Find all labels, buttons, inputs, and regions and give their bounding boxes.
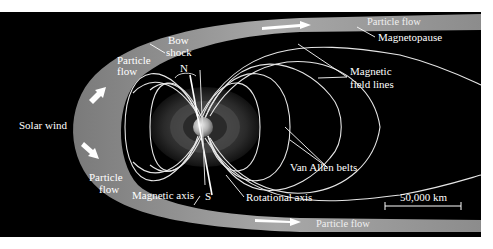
label-magnetopause: Magnetopause (378, 31, 442, 43)
label-magnetic-field-lines-2: field lines (350, 78, 394, 90)
label-magnetic-field-lines-1: Magnetic (350, 65, 392, 77)
magnetosphere-diagram: Solar wind Bow shock Particle flow Parti… (0, 0, 493, 249)
label-scale-bar: 50,000 km (400, 191, 448, 203)
label-bow-shock-1: Bow (168, 34, 189, 46)
label-van-allen-belts: Van Allen belts (290, 161, 357, 173)
label-solar-wind: Solar wind (19, 119, 67, 131)
label-particle-flow-bottom: Particle flow (316, 218, 370, 229)
label-particle-flow-lower-2: flow (99, 183, 119, 195)
label-bow-shock-2: shock (166, 46, 192, 58)
label-particle-flow-top: Particle flow (367, 16, 421, 27)
label-south: S (205, 190, 211, 202)
label-magnetic-axis: Magnetic axis (132, 189, 194, 201)
label-north: N (180, 62, 188, 74)
label-rotational-axis: Rotational axis (246, 191, 312, 203)
label-particle-flow-lower-1: Particle (89, 171, 123, 183)
label-particle-flow-upper-2: flow (117, 65, 137, 77)
